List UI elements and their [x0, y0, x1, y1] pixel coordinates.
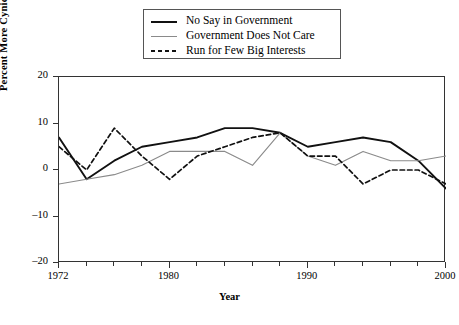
- x-tick-label: 1972: [38, 270, 78, 281]
- x-tick-label: 1990: [287, 270, 327, 281]
- y-tick-label: –10: [18, 209, 48, 220]
- chart-figure: No Say in Government Government Does Not…: [0, 0, 459, 325]
- x-tick-label: 1980: [149, 270, 189, 281]
- y-tick-label: 20: [18, 69, 48, 80]
- x-tick-label: 2000: [425, 270, 459, 281]
- series-canvas: [59, 77, 446, 263]
- y-tick-label: 0: [18, 162, 48, 173]
- y-tick-label: 10: [18, 116, 48, 127]
- x-axis-label: Year: [0, 291, 459, 302]
- series-line-2: [59, 128, 446, 184]
- y-tick-label: –20: [18, 255, 48, 266]
- plot-area: [58, 76, 445, 262]
